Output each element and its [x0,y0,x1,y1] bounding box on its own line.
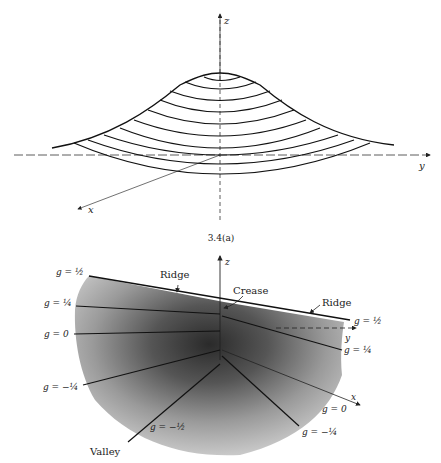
level-label-left-neg-quarter: g = −¼ [43,382,78,392]
figure-caption: 3.4(a) [208,233,235,243]
top-x-label: x [88,204,94,215]
ridge-right-arrow [310,305,320,313]
level-label-right-zero: g = 0 [322,404,347,414]
ridge-right-label: Ridge [322,297,352,308]
figure-canvas: z y x 3.4(a) z [0,0,441,463]
bottom-z-label: z [224,257,230,267]
top-y-label: y [418,160,425,171]
level-label-right-quarter: g = ¼ [344,345,372,355]
bottom-y-label: y [344,333,351,343]
ridge-left-label: Ridge [160,269,190,280]
bottom-x-label: x [351,392,356,402]
level-label-left-half: g = ½ [56,267,84,277]
valley-label: Valley [89,446,121,457]
crease-label: Crease [233,285,268,296]
bell-profile-curve [52,73,394,148]
crease-surface-figure: z y x Ridge Ridge Crease Valley g = ½ [43,256,382,457]
level-label-left-quarter: g = ¼ [44,298,72,308]
level-label-right-neg-quarter: g = −¼ [302,427,337,437]
level-label-right-half: g = ½ [354,316,382,326]
bump-surface-figure: z y x [14,14,430,220]
top-z-label: z [223,15,230,26]
contour-lines [74,77,370,174]
level-label-left-zero: g = 0 [44,329,69,339]
level-label-bottom-neg-half: g = −½ [150,422,185,432]
